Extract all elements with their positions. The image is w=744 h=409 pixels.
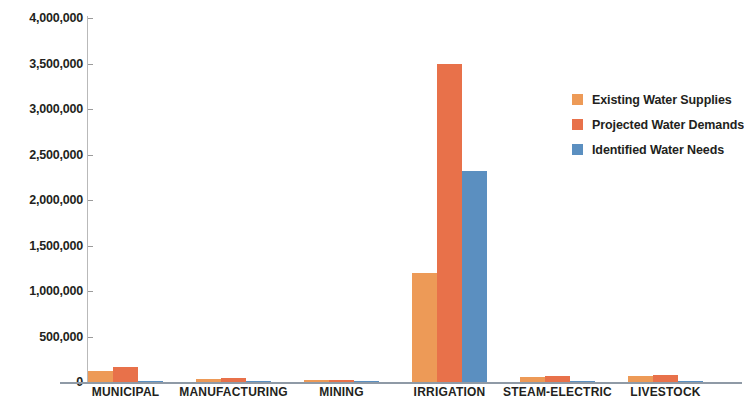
- y-axis-tick-label: 3,500,000: [5, 58, 83, 71]
- bar: [412, 273, 437, 382]
- legend-label: Existing Water Supplies: [592, 93, 732, 107]
- y-axis-tick-label: 1,500,000: [5, 240, 83, 253]
- y-axis-labels: 4,000,0003,500,0003,000,0002,500,0002,00…: [0, 0, 83, 409]
- x-axis-tick-label: MANUFACTURING: [179, 386, 288, 399]
- y-axis-tick-label: 4,000,000: [5, 12, 83, 25]
- bar: [653, 375, 678, 382]
- chart-legend: Existing Water SuppliesProjected Water D…: [572, 89, 744, 164]
- bar: [678, 381, 703, 382]
- bar: [246, 381, 271, 382]
- legend-color-swatch: [572, 144, 583, 155]
- y-axis-tick-label: 1,000,000: [5, 285, 83, 298]
- bar: [138, 381, 163, 382]
- legend-label: Projected Water Demands: [592, 118, 744, 132]
- bar: [520, 377, 545, 382]
- legend-color-swatch: [572, 94, 583, 105]
- legend-color-swatch: [572, 119, 583, 130]
- bar: [354, 381, 379, 382]
- y-axis-tick-label: 3,000,000: [5, 103, 83, 116]
- bar-group: [88, 16, 163, 382]
- x-axis-tick-label: MUNICIPAL: [92, 386, 160, 399]
- bar: [437, 64, 462, 383]
- legend-label: Identified Water Needs: [592, 143, 724, 157]
- x-axis-labels: MUNICIPALMANUFACTURINGMININGIRRIGATIONST…: [0, 386, 742, 409]
- bar: [545, 376, 570, 382]
- legend-item: Identified Water Needs: [572, 139, 744, 160]
- bar: [329, 380, 354, 382]
- bar: [88, 371, 113, 382]
- x-axis-tick-label: MINING: [319, 386, 364, 399]
- bar: [196, 379, 221, 382]
- bar: [221, 378, 246, 382]
- bar: [113, 367, 138, 382]
- bar: [570, 381, 595, 382]
- y-axis-tick-label: 2,500,000: [5, 149, 83, 162]
- bar: [304, 380, 329, 382]
- bar-group: [520, 16, 595, 382]
- x-axis-tick-label: LIVESTOCK: [630, 386, 700, 399]
- x-axis-tick-label: IRRIGATION: [414, 386, 486, 399]
- bar-group: [304, 16, 379, 382]
- bar: [628, 376, 653, 382]
- legend-item: Existing Water Supplies: [572, 89, 744, 110]
- plot-area: [88, 16, 742, 382]
- bar-group: [196, 16, 271, 382]
- bar-group: [628, 16, 703, 382]
- legend-item: Projected Water Demands: [572, 114, 744, 135]
- x-axis-line: [60, 382, 742, 384]
- x-axis-tick-label: STEAM-ELECTRIC: [503, 386, 612, 399]
- y-axis-tick-label: 500,000: [5, 331, 83, 344]
- bar: [462, 171, 487, 382]
- bar-group: [412, 16, 487, 382]
- y-axis-tick-label: 2,000,000: [5, 194, 83, 207]
